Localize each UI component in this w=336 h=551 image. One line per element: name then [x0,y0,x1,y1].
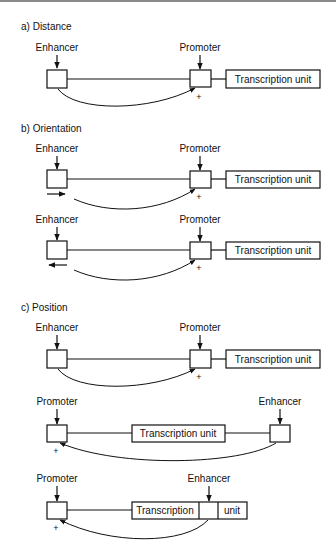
transcription-part2-label: unit [224,505,240,516]
transcription-part1-label: Transcription [136,505,193,516]
promoter-box [190,242,211,259]
enhancer-box [47,70,67,88]
enhancer-diagram: a) Distance Enhancer Promoter Transcript… [0,0,336,551]
section-title-orientation: b) Orientation [21,123,82,134]
position-row-intronic: Promoter Enhancer Transcription unit + [36,473,247,539]
enhancer-label: Enhancer [36,322,79,333]
promoter-label: Promoter [179,42,221,53]
promoter-box [47,425,67,442]
position-row-upstream: Enhancer Promoter Transcription unit + [36,322,320,386]
enhancer-box [47,350,67,368]
activation-arrow [58,369,195,386]
activation-arrow [60,443,276,461]
transcription-unit-label: Transcription unit [235,354,312,365]
plus-sign: + [196,263,201,273]
orientation-row-reverse: Enhancer Promoter Transcription unit + [36,214,320,280]
enhancer-box [270,425,290,442]
promoter-box [190,350,211,368]
activation-arrow [74,189,195,209]
enhancer-label: Enhancer [188,473,231,484]
plus-sign: + [196,92,201,102]
activation-arrow [58,88,195,106]
top-rule [0,0,336,2]
transcription-unit-label: Transcription unit [235,174,312,185]
plus-sign: + [196,372,201,382]
enhancer-label: Enhancer [36,42,79,53]
transcription-unit-label: Transcription unit [235,74,312,85]
transcription-unit-label: Transcription unit [140,428,217,439]
section-title-distance: a) Distance [21,21,72,32]
promoter-box [190,171,211,188]
promoter-box [190,70,211,87]
activation-arrow [60,520,208,539]
enhancer-label: Enhancer [259,396,302,407]
section-title-position: c) Position [21,302,68,313]
transcription-unit-label: Transcription unit [235,245,312,256]
enhancer-label: Enhancer [36,143,79,154]
promoter-label: Promoter [179,143,221,154]
plus-sign: + [53,446,58,456]
promoter-box [47,502,67,519]
promoter-label: Promoter [36,396,78,407]
distance-row: Enhancer Promoter Transcription unit + [36,42,320,106]
promoter-label: Promoter [179,322,221,333]
plus-sign: + [53,523,58,533]
position-row-downstream: Promoter Enhancer Transcription unit + [36,396,302,461]
enhancer-label: Enhancer [36,214,79,225]
orientation-row-forward: Enhancer Promoter Transcription unit + [36,143,320,209]
promoter-label: Promoter [179,214,221,225]
enhancer-box [47,170,67,188]
enhancer-box [47,241,67,259]
plus-sign: + [196,192,201,202]
activation-arrow [74,260,195,280]
promoter-label: Promoter [36,473,78,484]
